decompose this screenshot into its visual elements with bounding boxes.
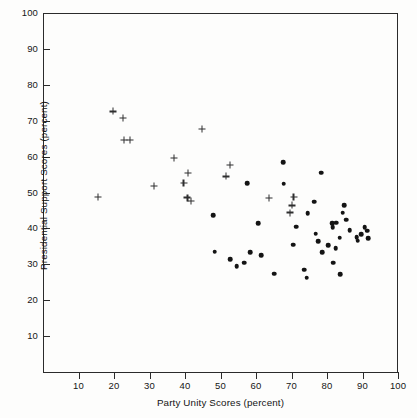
y-tick-label: 100 — [8, 8, 38, 18]
y-tick-label: 60 — [8, 152, 38, 162]
x-tick-label: 40 — [168, 381, 202, 391]
x-tick-label: 30 — [133, 381, 167, 391]
x-tick-label: 50 — [204, 381, 238, 391]
y-tick-label: 70 — [8, 116, 38, 126]
x-tick-mark — [256, 372, 257, 379]
y-tick-label: 90 — [8, 44, 38, 54]
x-tick-mark — [150, 372, 151, 379]
y-tick-mark — [43, 13, 50, 14]
x-tick-label: 70 — [275, 381, 309, 391]
x-tick-label: 10 — [62, 381, 96, 391]
y-tick-mark — [43, 49, 50, 50]
x-tick-mark — [185, 372, 186, 379]
y-tick-mark — [43, 336, 50, 337]
x-tick-label: 80 — [310, 381, 344, 391]
x-tick-label: 100 — [381, 381, 415, 391]
y-tick-label: 40 — [8, 223, 38, 233]
x-tick-label: 60 — [239, 381, 273, 391]
y-tick-label: 20 — [8, 295, 38, 305]
x-tick-mark — [221, 372, 222, 379]
y-axis-label: Presidential Support Scores (percent) — [38, 66, 49, 306]
y-tick-label: 80 — [8, 80, 38, 90]
x-tick-mark — [363, 372, 364, 379]
x-axis-label: Party Unity Scores (percent) — [43, 397, 398, 408]
x-tick-label: 20 — [97, 381, 131, 391]
x-tick-mark — [114, 372, 115, 379]
y-tick-label: 50 — [8, 188, 38, 198]
y-tick-label: 30 — [8, 259, 38, 269]
x-tick-mark — [79, 372, 80, 379]
x-tick-mark — [327, 372, 328, 379]
x-tick-label: 90 — [346, 381, 380, 391]
scatter-plot-figure: 102030405060708090100 102030405060708090… — [0, 0, 417, 418]
plot-frame — [43, 13, 398, 372]
x-tick-mark — [398, 372, 399, 379]
x-tick-mark — [292, 372, 293, 379]
y-tick-label: 10 — [8, 331, 38, 341]
